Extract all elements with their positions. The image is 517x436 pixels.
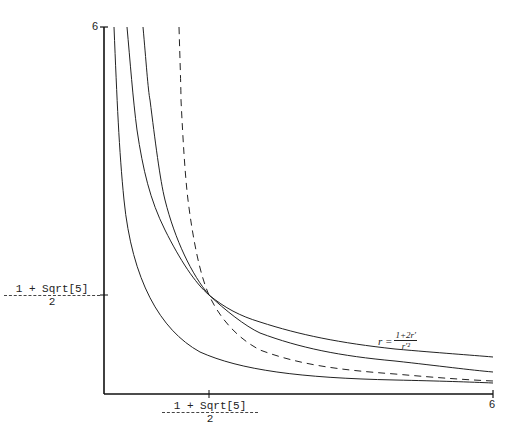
curve-equation-label: r = 1+2r′ r′² [378, 330, 417, 351]
y-phi-numerator: 1 + Sqrt[5] [4, 283, 100, 296]
curve-3 [143, 27, 493, 357]
equation-denominator: r′² [402, 341, 410, 351]
equation-lhs: r = [378, 335, 392, 347]
y-phi-denominator: 2 [4, 296, 100, 308]
x-axis-max-label: 6 [489, 398, 495, 410]
y-axis-phi-label: 1 + Sqrt[5] 2 [4, 283, 100, 308]
dashed-curve [179, 27, 493, 381]
equation-numerator: 1+2r′ [394, 330, 417, 341]
y-axis-max-label: 6 [92, 20, 98, 32]
equation-fraction: 1+2r′ r′² [394, 330, 417, 351]
x-axis-phi-label: 1 + Sqrt[5] 2 [162, 400, 258, 425]
curve-1 [114, 27, 493, 383]
curve-2 [127, 27, 493, 372]
x-phi-denominator: 2 [162, 413, 258, 425]
plot-canvas [0, 0, 517, 436]
x-phi-numerator: 1 + Sqrt[5] [162, 400, 258, 413]
